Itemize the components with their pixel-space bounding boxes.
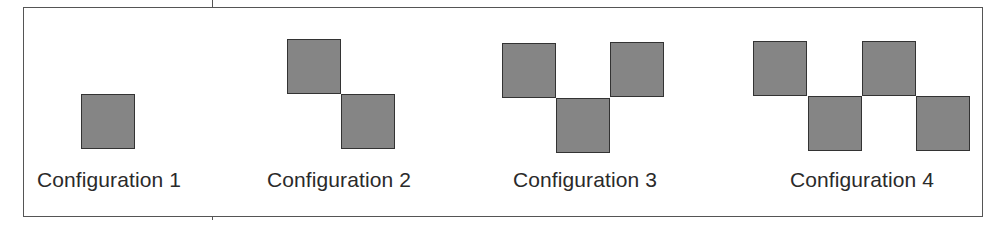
- configuration-label: Configuration 2: [267, 168, 411, 192]
- square: [862, 41, 916, 96]
- square: [287, 39, 341, 94]
- square: [808, 96, 862, 151]
- square: [753, 41, 807, 96]
- square: [341, 94, 395, 149]
- square: [81, 94, 135, 149]
- configuration-label: Configuration 1: [37, 168, 181, 192]
- configuration-label: Configuration 4: [790, 168, 934, 192]
- square: [556, 98, 610, 153]
- square: [610, 42, 664, 97]
- square: [502, 43, 556, 98]
- square: [916, 96, 970, 151]
- configuration-label: Configuration 3: [513, 168, 657, 192]
